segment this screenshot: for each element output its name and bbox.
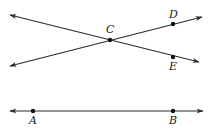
point-d-label: D — [168, 8, 178, 21]
point-a-dot — [31, 109, 35, 113]
point-e-dot — [171, 55, 175, 59]
point-a-label: A — [28, 114, 37, 127]
point-e: E — [168, 55, 177, 73]
point-b-label: B — [168, 114, 177, 127]
geometry-diagram: C D E A B — [0, 0, 213, 137]
point-d-dot — [171, 22, 175, 26]
point-b-dot — [171, 109, 175, 113]
point-c-label: C — [106, 23, 115, 36]
point-c-dot — [108, 38, 112, 42]
point-e-label: E — [168, 60, 177, 73]
line-ce — [10, 15, 199, 62]
